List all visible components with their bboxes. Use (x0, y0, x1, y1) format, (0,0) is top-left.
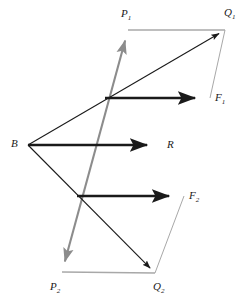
construction-q1-f1 (210, 30, 225, 98)
vector-canvas (0, 0, 245, 301)
label-q1: Q1 (224, 7, 235, 21)
vector-b-to-q2 (28, 145, 150, 268)
label-q2: Q2 (153, 281, 164, 295)
force-vector-diagram: P1Q1F1BRF2P2Q2 (0, 0, 245, 301)
construction-f2-q2 (155, 196, 184, 273)
vector-lines-group (28, 33, 219, 268)
construction-lines-group (62, 30, 225, 273)
construction-p2-q2 (62, 272, 155, 273)
label-f2: F2 (189, 190, 199, 204)
label-p2: P2 (50, 281, 60, 295)
label-r: R (167, 139, 174, 150)
vector-p-axis (65, 41, 125, 262)
label-f1: F1 (215, 92, 225, 106)
label-p1: P1 (121, 8, 131, 22)
label-b: B (11, 138, 18, 149)
